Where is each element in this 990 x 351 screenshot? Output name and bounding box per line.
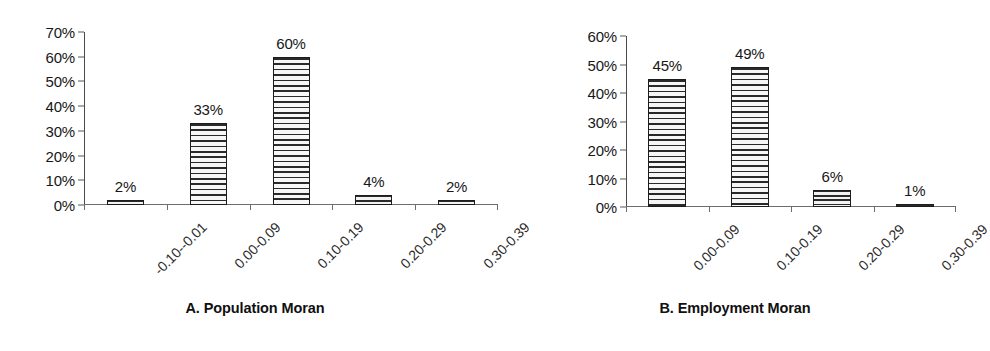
y-axis-tick-mark [620,64,626,65]
bar-value-label: 60% [276,35,305,52]
x-axis-category-label: 0.00-0.09 [231,219,284,272]
x-axis-category-label: 0.10-0.19 [773,221,826,274]
x-axis-tick-mark [626,207,627,212]
bar-value-label: 2% [446,178,467,195]
bar-value-label: 45% [653,57,682,74]
chart-panel-population-moran: 0%10%20%30%40%50%60%70% 2%33%60%4%2% -0.… [0,0,510,351]
x-axis-category-label: -0.10--0.01 [151,219,210,278]
panel-title-population-moran: A. Population Moran [0,300,510,316]
y-axis-tick-mark [620,150,626,151]
x-axis-category-label: 0.00-0.09 [690,221,743,274]
x-axis-tick-mark [709,207,710,212]
y-axis-tick-mark [78,180,84,181]
bar [731,67,769,207]
x-axis-tick-mark [332,205,333,210]
x-axis-tick-mark [955,207,956,212]
bar-value-label: 33% [193,101,222,118]
plot-area-employment-moran: 0%10%20%30%40%50%60% 45%49%6%1% [626,36,956,207]
y-axis-tick-mark [78,130,84,131]
y-axis-tick-mark [78,56,84,57]
bar [190,123,227,205]
y-axis-tick-mark [78,32,84,33]
bar-value-label: 6% [822,168,843,185]
x-axis-tick-mark [791,207,792,212]
bar-value-label: 1% [904,182,925,199]
y-axis-tick-mark [78,155,84,156]
bar [438,200,475,205]
x-axis-category-label: 0.30-0.39 [938,221,990,274]
x-axis-tick-mark [250,205,251,210]
bar [648,79,686,207]
bar-value-label: 2% [115,178,136,195]
plot-area-population-moran: 0%10%20%30%40%50%60%70% 2%33%60%4%2% [84,32,498,205]
y-axis-tick-mark [620,121,626,122]
bar [107,200,144,205]
x-axis-category-label: 0.20-0.29 [855,221,908,274]
bar [273,57,310,205]
chart-panel-employment-moran: 0%10%20%30%40%50%60% 45%49%6%1% 0.00-0.0… [510,0,960,351]
bar [355,195,392,205]
x-axis-tick-mark [167,205,168,210]
y-axis-tick-mark [78,106,84,107]
y-axis-tick-mark [78,81,84,82]
x-axis-tick-mark [874,207,875,212]
y-axis-tick-mark [620,93,626,94]
y-axis-tick-mark [620,178,626,179]
panel-title-employment-moran: B. Employment Moran [510,300,960,316]
x-axis-tick-mark [84,205,85,210]
bar [896,204,934,207]
bar-value-label: 4% [363,173,384,190]
x-axis-category-label: 0.10-0.19 [314,219,367,272]
bar [813,190,851,207]
x-axis-tick-mark [415,205,416,210]
y-axis-line [626,36,627,207]
x-axis-tick-mark [497,205,498,210]
bar-value-label: 49% [735,45,764,62]
y-axis-tick-mark [620,36,626,37]
y-axis-line [84,32,85,205]
x-axis-category-label: 0.20-0.29 [397,219,450,272]
